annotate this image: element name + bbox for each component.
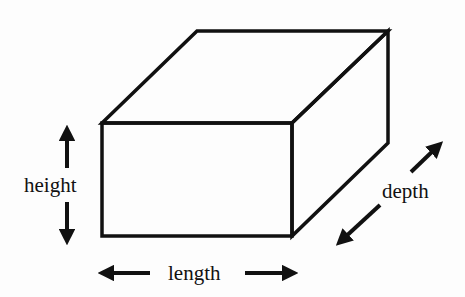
box-front-face bbox=[102, 123, 292, 236]
box-side-face bbox=[292, 31, 388, 236]
length-label: length bbox=[168, 261, 221, 285]
depth-label: depth bbox=[382, 179, 429, 203]
box-diagram: height length depth bbox=[0, 0, 465, 297]
box-shape bbox=[102, 31, 388, 236]
box-top-face bbox=[102, 31, 388, 123]
height-label: height bbox=[24, 173, 77, 197]
